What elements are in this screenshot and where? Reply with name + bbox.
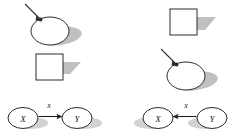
causal-graph-y-to-x: X Y x [134,101,227,129]
left-ellipse-group[interactable] [25,4,83,48]
node-x-label: X [154,114,161,124]
left-panel: X Y x [8,4,102,129]
right-square-group[interactable] [170,9,216,35]
square-shape[interactable] [170,9,197,35]
causal-graph-x-to-y: X Y x [8,101,102,129]
right-panel: X Y x [134,9,227,129]
figure-canvas: X Y x [0,0,236,138]
edge-y-to-x-label: x [183,101,188,110]
right-ellipse-group[interactable] [161,49,219,93]
ellipse-shape[interactable] [167,62,205,90]
node-x-label: X [19,114,26,124]
square-shape[interactable] [36,54,63,80]
left-square-group[interactable] [36,54,81,80]
ellipse-shape[interactable] [31,17,69,45]
edge-x-to-y-label: x [46,101,51,110]
